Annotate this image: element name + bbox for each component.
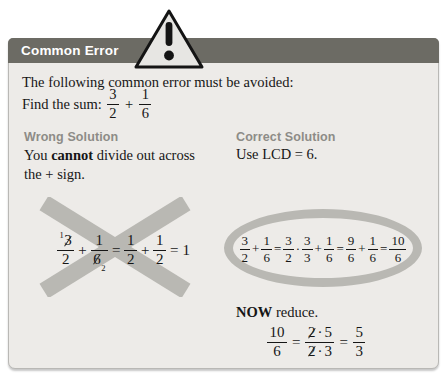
plus-sign: + bbox=[77, 242, 87, 259]
plus-sign: + bbox=[358, 241, 366, 257]
fraction-5-3: 5 3 bbox=[353, 325, 366, 360]
correct-solution-heading: Correct Solution bbox=[236, 130, 336, 144]
equals-sign: = bbox=[273, 241, 281, 257]
wrong-result: 1 bbox=[182, 242, 190, 259]
fraction-cancelled-3-2: 13 2 bbox=[57, 233, 74, 268]
fraction-factored: 2·5 2·3 bbox=[305, 325, 334, 360]
wrong-solution-text: You cannot divide out across the + sign. bbox=[24, 146, 229, 184]
fraction-1-6: 1 6 bbox=[139, 87, 151, 120]
equals-sign: = bbox=[338, 334, 348, 351]
fraction-1-2: 1 2 bbox=[124, 233, 137, 268]
now-reduce-text: NOW reduce. bbox=[236, 304, 318, 321]
equals-sign: = bbox=[169, 242, 179, 259]
wrong-equation: 13 2 + 1 62 = 1 2 + 1 2 = 1 bbox=[57, 227, 190, 273]
correct-equation: 3 2 + 1 6 = 3 2 · 3 3 + 1 6 = 9 6 + 1 bbox=[235, 228, 411, 270]
find-sum-label: Find the sum: bbox=[22, 96, 102, 113]
multiply-dot: · bbox=[295, 241, 300, 257]
find-sum-row: Find the sum: 3 2 + 1 6 bbox=[22, 88, 151, 120]
common-error-figure: Common Error The following common error … bbox=[0, 0, 447, 385]
reduction-equation: 10 6 = 2·5 2·3 = 5 3 bbox=[267, 323, 365, 361]
equals-sign: = bbox=[380, 241, 388, 257]
plus-sign: + bbox=[252, 241, 260, 257]
fraction-1-2: 1 2 bbox=[153, 233, 166, 268]
fraction-3-2: 3 2 bbox=[107, 87, 119, 120]
wrong-solution-heading: Wrong Solution bbox=[24, 130, 118, 144]
equals-sign: = bbox=[111, 242, 121, 259]
correct-solution-text: Use LCD = 6. bbox=[236, 146, 317, 163]
fraction-1-cancelled-6: 1 62 bbox=[91, 233, 108, 268]
header-title: Common Error bbox=[21, 43, 119, 58]
plus-sign: + bbox=[314, 241, 322, 257]
plus-sign: + bbox=[124, 96, 134, 113]
warning-triangle-icon bbox=[133, 8, 205, 70]
plus-sign: + bbox=[140, 242, 150, 259]
header-bar: Common Error bbox=[8, 38, 439, 63]
fraction-10-6: 10 6 bbox=[267, 325, 287, 360]
equals-sign: = bbox=[336, 241, 344, 257]
equals-sign: = bbox=[291, 334, 301, 351]
cannot-bold: cannot bbox=[51, 147, 93, 163]
